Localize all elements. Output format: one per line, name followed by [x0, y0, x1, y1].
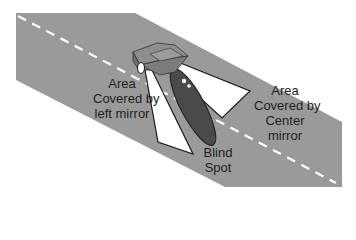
center-mirror-label-line-2: Covered by: [254, 98, 316, 113]
left-mirror-icon: [138, 63, 145, 74]
center-mirror-dot: [182, 79, 186, 83]
center-mirror-label-line-4: mirror: [254, 128, 316, 143]
center-mirror-label: Area Covered by Center mirror: [254, 83, 316, 143]
center-mirror-label-line-3: Center: [254, 113, 316, 128]
left-mirror-label: Area Covered by left mirror: [93, 76, 151, 121]
center-mirror-dot-2: [187, 84, 191, 88]
left-mirror-label-line-3: left mirror: [93, 106, 151, 121]
left-mirror-label-line-1: Area: [93, 76, 151, 91]
left-mirror-label-line-2: Covered by: [93, 91, 151, 106]
blind-spot-label: Blind Spot: [198, 145, 238, 175]
center-mirror-label-line-1: Area: [254, 83, 316, 98]
blind-spot-label-line-1: Blind: [198, 145, 238, 160]
blind-spot-label-line-2: Spot: [198, 160, 238, 175]
